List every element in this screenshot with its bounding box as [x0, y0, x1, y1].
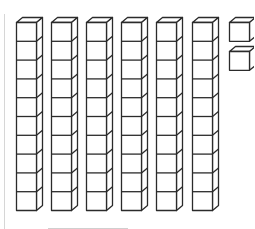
- tens-rod: [17, 18, 43, 211]
- unit-cubes-group: [230, 18, 255, 71]
- tens-rod: [122, 18, 148, 211]
- unit-cube: [230, 18, 255, 42]
- tens-rod: [157, 18, 183, 211]
- tens-rod: [193, 18, 219, 211]
- base-ten-blocks-diagram: [0, 0, 254, 229]
- tens-rods-group: [17, 18, 219, 211]
- tens-rod: [87, 18, 113, 211]
- unit-cube: [230, 47, 255, 71]
- tens-rod: [52, 18, 78, 211]
